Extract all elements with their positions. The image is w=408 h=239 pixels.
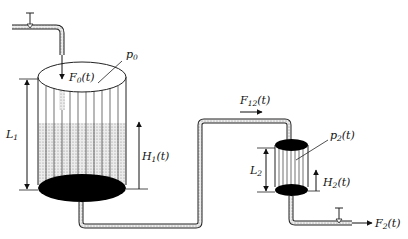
label-F2: F2(t) <box>374 217 400 231</box>
L1-dimension <box>19 79 38 190</box>
label-p0: p0 <box>126 48 138 62</box>
label-H2: H2(t) <box>322 176 350 190</box>
inlet-pipe <box>12 27 62 55</box>
label-H1: H1(t) <box>141 150 169 164</box>
label-F12: F12(t) <box>239 94 270 108</box>
outlet-pipe <box>291 196 352 223</box>
two-tank-diagram: p0 F0(t) L1 H1(t) F12(t) <box>0 0 408 239</box>
label-p2: p2(t) <box>330 129 355 143</box>
label-F0: F0(t) <box>68 71 94 85</box>
H2-dimension <box>308 170 320 191</box>
tank-2 <box>275 139 328 196</box>
label-L1: L1 <box>5 128 18 142</box>
label-L2: L2 <box>249 164 262 178</box>
